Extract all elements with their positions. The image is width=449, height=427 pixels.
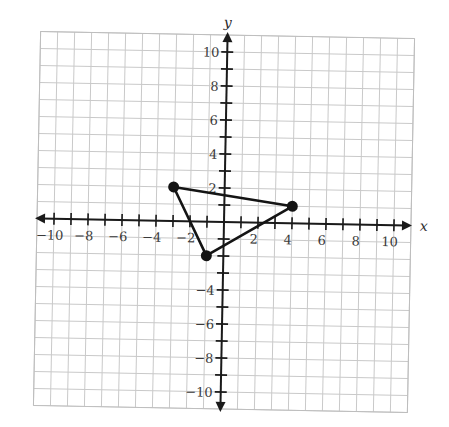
triangle-edge bbox=[173, 187, 292, 206]
y-tick-label: −4 bbox=[195, 282, 214, 297]
y-tick-label: −10 bbox=[185, 384, 213, 400]
x-tick-label: −6 bbox=[108, 229, 127, 244]
x-tick-label: −10 bbox=[36, 227, 64, 243]
y-tick-label: −6 bbox=[195, 316, 214, 331]
x-tick-label: −4 bbox=[142, 229, 161, 244]
rotated-plane-group: −10−8−6−4−2246810−10−8−6−4246810 x y bbox=[31, 10, 432, 415]
y-tick-label: −8 bbox=[194, 350, 213, 365]
y-tick-label: 6 bbox=[210, 113, 219, 128]
x-tick-label: −2 bbox=[176, 230, 195, 245]
y-tick-label: 10 bbox=[203, 45, 220, 60]
x-tick-label: 10 bbox=[381, 234, 398, 249]
triangle-vertex bbox=[201, 250, 212, 261]
x-tick-label: −8 bbox=[74, 228, 93, 243]
x-axis-label: x bbox=[420, 218, 428, 234]
y-axis-arrow-down-icon bbox=[215, 402, 225, 412]
y-axis-arrow-up-icon bbox=[222, 32, 232, 42]
x-tick-label: 4 bbox=[283, 232, 292, 247]
x-tick-label: 6 bbox=[317, 233, 326, 248]
triangle-vertex bbox=[168, 181, 179, 192]
coordinate-plane: −10−8−6−4−2246810−10−8−6−4246810 x y bbox=[0, 0, 449, 427]
y-tick-label: 4 bbox=[209, 147, 218, 162]
y-tick-label: 8 bbox=[210, 79, 219, 94]
triangle-vertex bbox=[287, 201, 298, 212]
triangle-edge bbox=[206, 205, 292, 258]
x-tick-label: 2 bbox=[249, 231, 258, 246]
y-axis-label: y bbox=[223, 14, 233, 30]
x-tick-label: 8 bbox=[351, 233, 360, 248]
